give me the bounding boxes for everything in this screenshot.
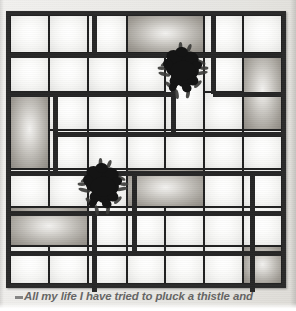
window-pane-r2c3	[88, 53, 127, 91]
mullion-h-row3	[55, 132, 282, 137]
scanned-page: All my life I have tried to pluck a this…	[0, 0, 296, 311]
window-grid-frame	[6, 11, 286, 288]
mullion-h-row2	[10, 92, 173, 97]
window-pane-r2c4	[127, 53, 166, 91]
caption-text: All my life I have tried to pluck a this…	[24, 290, 253, 302]
page-bottom-crop-fade	[0, 303, 296, 311]
window-pane-grid	[10, 15, 282, 284]
window-pane-r2c1	[10, 53, 49, 91]
mullion-h-row5	[10, 211, 282, 216]
mullion-h-row1	[10, 53, 282, 58]
mullion-v-col3-top	[92, 15, 97, 55]
window-pane-r3c4	[127, 92, 166, 130]
window-pane-r3c1	[10, 92, 49, 169]
caption-bullet-icon	[15, 296, 23, 299]
window-pane-r3c3	[88, 92, 127, 130]
window-pane-r2c2	[49, 53, 88, 91]
mullion-h-row2b	[213, 92, 282, 97]
window-pane-r3c6	[204, 92, 243, 130]
mullion-h-row6	[10, 251, 282, 256]
window-pane-r1c4	[127, 15, 205, 53]
window-pane-r1c7	[243, 15, 282, 53]
mullion-h-row4	[10, 171, 282, 176]
page-left-edge-shadow	[0, 0, 4, 311]
window-pane-r1c2	[49, 15, 88, 53]
page-right-edge-shadow	[290, 0, 296, 311]
window-pane-r1c1	[10, 15, 49, 53]
mullion-v-col6-low	[250, 173, 255, 292]
